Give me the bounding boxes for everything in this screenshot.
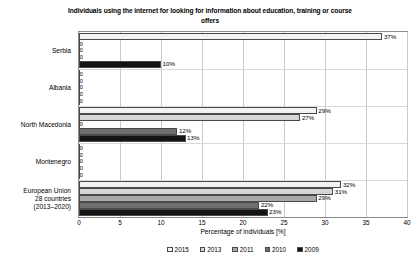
bar[interactable] — [79, 107, 317, 113]
bar-value-label: 0 — [79, 172, 83, 178]
legend-label: 2009 — [305, 246, 319, 253]
bar-row[interactable]: 0 — [79, 84, 407, 90]
bar-value-label: 0 — [79, 77, 83, 83]
bar-row[interactable]: 27% — [79, 114, 407, 120]
bar-row[interactable]: 0 — [79, 172, 407, 178]
bar-value-label: 0 — [79, 98, 83, 104]
bar-row[interactable]: 37% — [79, 33, 407, 39]
legend-swatch-icon — [265, 247, 270, 252]
bar-row[interactable]: 29% — [79, 195, 407, 201]
bar-row[interactable]: 32% — [79, 181, 407, 187]
chart-title: Individuals using the internet for looki… — [62, 6, 358, 26]
bar[interactable] — [79, 128, 177, 134]
bar[interactable] — [79, 202, 259, 208]
bar-row[interactable]: 13% — [79, 135, 407, 141]
bar-value-label: 29% — [317, 195, 331, 201]
bar[interactable] — [79, 181, 341, 187]
bar[interactable] — [79, 188, 333, 194]
bar-row[interactable]: 0 — [79, 47, 407, 53]
y-axis-category-label: European Union28 countries(2013–2020) — [0, 186, 74, 211]
bar-row[interactable]: 0 — [79, 54, 407, 60]
legend-swatch-icon — [232, 247, 237, 252]
legend-swatch-icon — [200, 247, 205, 252]
bar-value-label: 0 — [79, 158, 83, 164]
bar-value-label: 23% — [268, 209, 282, 215]
y-axis-category-label: Serbia — [0, 46, 74, 54]
bar-value-label: 0 — [79, 91, 83, 97]
legend-label: 2015 — [175, 246, 189, 253]
legend-item[interactable]: 2011 — [232, 246, 253, 253]
bar-row[interactable]: 0 — [79, 40, 407, 46]
chart-legend: 20152013201120102009 — [78, 246, 408, 253]
bar-row[interactable]: 31% — [79, 188, 407, 194]
x-axis-title: Percentage of individuals [%] — [78, 228, 408, 235]
legend-swatch-icon — [167, 247, 172, 252]
x-axis-tick-label: 25 — [280, 219, 287, 226]
x-axis-tick-label: 5 — [118, 219, 122, 226]
bar-row[interactable]: 0 — [79, 77, 407, 83]
bar-value-label: 0 — [79, 70, 83, 76]
bar-row[interactable]: 0 — [79, 158, 407, 164]
bar-value-label: 0 — [79, 47, 83, 53]
x-axis-tick-label: 10 — [157, 219, 164, 226]
bar-row[interactable]: 0 — [79, 98, 407, 104]
bar-value-label: 37% — [382, 33, 396, 39]
x-axis-tick-label: 0 — [77, 219, 81, 226]
x-axis-tick-label: 15 — [198, 219, 205, 226]
bar-row[interactable]: 0 — [79, 70, 407, 76]
bar-value-label: 0 — [79, 144, 83, 150]
y-axis-labels: SerbiaAlbaniaNorth MacedoniaMontenegroEu… — [0, 31, 74, 218]
bar[interactable] — [79, 33, 382, 39]
gridline — [407, 32, 408, 217]
legend-swatch-icon — [297, 247, 302, 252]
chart-container: Individuals using the internet for looki… — [0, 0, 418, 269]
y-axis-category-label: Albania — [0, 83, 74, 91]
bar-group: 00000 — [79, 69, 407, 106]
bar-group: 29%27%012%13% — [79, 106, 407, 143]
bar-group: 37%00010% — [79, 32, 407, 69]
bar-value-label: 29% — [317, 107, 331, 113]
bar-row[interactable]: 0 — [79, 151, 407, 157]
bar-row[interactable]: 0 — [79, 91, 407, 97]
bar-value-label: 0 — [79, 121, 83, 127]
bar[interactable] — [79, 114, 300, 120]
legend-label: 2013 — [207, 246, 221, 253]
bar-value-label: 0 — [79, 165, 83, 171]
bar-value-label: 0 — [79, 84, 83, 90]
bar-value-label: 0 — [79, 40, 83, 46]
x-axis-tick-label: 20 — [239, 219, 246, 226]
bar-row[interactable]: 0 — [79, 144, 407, 150]
bar[interactable] — [79, 209, 268, 215]
x-axis-tick-label: 30 — [321, 219, 328, 226]
bar-row[interactable]: 23% — [79, 209, 407, 215]
bar-value-label: 0 — [79, 54, 83, 60]
bar-value-label: 10% — [161, 61, 175, 67]
bar-row[interactable]: 0 — [79, 165, 407, 171]
bar-row[interactable]: 22% — [79, 202, 407, 208]
legend-item[interactable]: 2013 — [200, 246, 222, 253]
bar-row[interactable]: 0 — [79, 121, 407, 127]
x-axis-tick-label: 40 — [403, 219, 410, 226]
bar-value-label: 0 — [79, 151, 83, 157]
y-axis-category-label: North Macedonia — [0, 120, 74, 128]
bar-value-label: 13% — [186, 135, 200, 141]
legend-item[interactable]: 2009 — [297, 246, 319, 253]
bar-row[interactable]: 12% — [79, 128, 407, 134]
x-axis-tick-label: 35 — [362, 219, 369, 226]
bar-value-label: 31% — [333, 188, 347, 194]
bar-row[interactable]: 10% — [79, 61, 407, 67]
legend-item[interactable]: 2015 — [167, 246, 189, 253]
legend-item[interactable]: 2010 — [265, 246, 287, 253]
bar[interactable] — [79, 61, 161, 67]
legend-label: 2011 — [240, 246, 254, 253]
legend-label: 2010 — [272, 246, 286, 253]
bar-groups: 37%00010%0000029%27%012%13%0000032%31%29… — [79, 32, 407, 217]
bar-value-label: 27% — [300, 114, 314, 120]
bar[interactable] — [79, 195, 317, 201]
bar-group: 00000 — [79, 143, 407, 180]
plot-area: 37%00010%0000029%27%012%13%0000032%31%29… — [78, 31, 408, 218]
bar[interactable] — [79, 135, 186, 141]
bar-group: 32%31%29%22%23% — [79, 180, 407, 217]
y-axis-category-label: Montenegro — [0, 157, 74, 165]
bar-row[interactable]: 29% — [79, 107, 407, 113]
